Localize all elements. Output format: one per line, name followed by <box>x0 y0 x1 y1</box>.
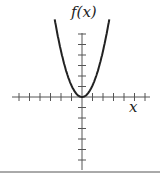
x-axis-label: x <box>129 98 137 116</box>
y-axis-label: f(x) <box>71 3 97 21</box>
graph: f(x) x <box>0 0 160 177</box>
plot-canvas <box>0 0 160 177</box>
